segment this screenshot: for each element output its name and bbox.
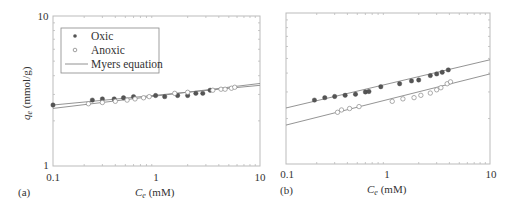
legend-myers-label: Myers equation [91,58,163,71]
oxic-point [153,93,157,97]
panel-a: 10 1 0.1 1 10 (a) Ce (mM) qe (mmol/g) Ox… [18,10,266,200]
oxic-point [201,91,205,95]
anoxic-point [141,96,145,100]
oxic-point [90,98,94,102]
plot-frame-b [286,13,490,164]
y-axis-label-a: qe (mmol/g) [20,66,34,120]
panel-b: 0.1 1 10 (b) Ce (mM) [280,13,497,197]
x-axis-label-a: Ce (mM) [135,186,175,200]
legend-anoxic-label: Anoxic [91,44,125,56]
legend: Oxic Anoxic Myers equation [61,28,163,73]
anoxic-point [357,104,361,108]
fit-lines-b [286,60,490,125]
oxic-point [162,94,166,98]
anoxic-point [211,88,215,92]
anoxic-point [390,99,394,103]
xtick-0.1: 0.1 [46,171,60,183]
panel-label-a: (a) [18,186,31,199]
legend-anoxic-marker [73,48,77,52]
oxic-point [417,78,421,82]
oxic-point [397,82,401,86]
oxic-point [409,79,413,83]
anoxic-point [448,80,452,84]
xtick-0.1-b: 0.1 [280,168,294,180]
minor-ticks-b [286,13,490,164]
oxic-point [434,72,438,76]
figure: 10 1 0.1 1 10 (a) Ce (mM) qe (mmol/g) Ox… [0,0,516,211]
ytick-10: 10 [38,10,50,22]
xtick-10: 10 [255,171,267,183]
xtick-1-b: 1 [384,168,390,180]
oxic-point [353,92,357,96]
oxic-point [440,70,444,74]
anoxic-point [439,86,443,90]
oxic-point [379,85,383,89]
oxic-point [332,94,336,98]
oxic-point [194,91,198,95]
anoxic-point [401,97,405,101]
oxic-point [323,95,327,99]
anoxic-point [419,93,423,97]
legend-oxic-marker [73,34,77,38]
oxic-point [428,73,432,77]
legend-oxic-label: Oxic [91,30,113,42]
anoxic-point [100,100,104,104]
xtick-1: 1 [153,171,159,183]
x-axis-label-b: Ce (mM) [367,183,407,197]
ytick-1: 1 [43,159,49,171]
data-points-b [312,68,452,115]
anoxic-point [133,97,137,101]
anoxic-point [173,91,177,95]
anoxic-point [412,95,416,99]
anoxic-point [339,108,343,112]
anoxic-point [428,91,432,95]
anoxic-point [86,102,90,106]
anoxic-point [147,94,151,98]
oxic-point [367,89,371,93]
panel-label-b: (b) [280,184,293,197]
data-points-a [51,85,237,107]
oxic-point [446,68,450,72]
anoxic-point [185,90,189,94]
anoxic-point [233,85,237,89]
anoxic-point [223,87,227,91]
oxic-point [312,98,316,102]
xtick-10-b: 10 [486,168,498,180]
anoxic-point [434,88,438,92]
anoxic-point [347,106,351,110]
anoxic-point [335,110,339,114]
anoxic-point [125,98,129,102]
oxic-point [343,93,347,97]
oxic-point [51,103,55,107]
anoxic-point [113,99,117,103]
